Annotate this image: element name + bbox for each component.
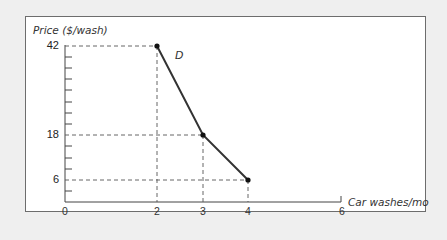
x-tick-label: 4: [245, 205, 251, 217]
x-tick-label: 2: [154, 205, 160, 217]
data-point: [154, 43, 159, 48]
y-axis-label: Price ($/wash): [33, 24, 108, 36]
x-tick-label: 6: [339, 205, 345, 217]
demand-curve: [157, 46, 248, 180]
data-point: [200, 132, 205, 137]
x-tick-label: 3: [200, 205, 206, 217]
data-point: [245, 177, 250, 182]
y-axis-ticks: [65, 57, 72, 191]
y-tick-label: 18: [35, 128, 59, 140]
curve-label: D: [175, 49, 183, 62]
guide-lines: [65, 46, 248, 202]
y-tick-label: 42: [35, 39, 59, 51]
x-tick-label: 0: [62, 205, 68, 217]
y-tick-label: 6: [35, 173, 59, 185]
x-axis-label: Car washes/mo: [348, 196, 429, 208]
